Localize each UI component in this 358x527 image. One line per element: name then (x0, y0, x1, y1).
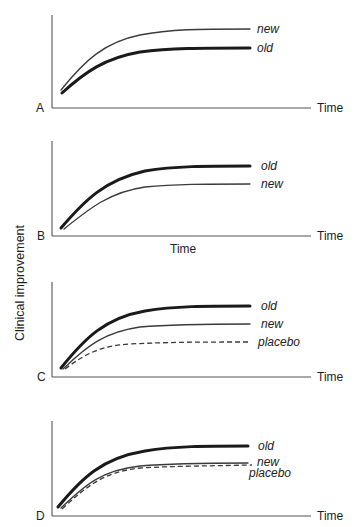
panel-c-new-curve (63, 324, 250, 369)
panel-b: old new Time Time B (37, 141, 344, 256)
panel-b-old-curve (61, 166, 250, 228)
y-axis-label: Clinical improvement (13, 224, 27, 341)
panel-a-new-curve (61, 29, 250, 90)
panel-d-placebo-label: placebo (248, 466, 291, 480)
panel-b-old-label: old (261, 159, 277, 173)
panel-b-under-axis-time-label: Time (170, 242, 197, 256)
panel-d-letter: D (36, 509, 45, 523)
panel-c-placebo-label: placebo (257, 335, 300, 349)
panel-b-new-curve (64, 184, 250, 229)
panel-a-time-label: Time (317, 101, 344, 115)
panel-d-placebo-curve (62, 465, 252, 509)
panel-d-old-label: old (258, 439, 274, 453)
panel-c-old-curve (61, 306, 250, 368)
panel-c-placebo-curve (65, 342, 250, 369)
panel-a-old-label: old (257, 41, 273, 55)
panel-a-letter: A (36, 101, 44, 115)
panel-c-new-label: new (261, 317, 284, 331)
panel-b-letter: B (37, 229, 45, 243)
panel-a-old-curve (62, 48, 250, 93)
panel-c-letter: C (37, 370, 46, 384)
panel-d-time-label: Time (317, 509, 344, 523)
panel-d-old-curve (58, 446, 248, 507)
panel-c: old new placebo Time C (37, 282, 344, 384)
panel-d-new-curve (61, 463, 248, 508)
panel-a-new-label: new (257, 22, 280, 36)
panel-c-time-label: Time (317, 370, 344, 384)
panel-c-old-label: old (261, 299, 277, 313)
panel-b-new-label: new (261, 177, 284, 191)
figure-canvas: Clinical improvement new old Time A old … (0, 0, 358, 527)
panel-d: old new placebo Time D (36, 421, 344, 523)
panel-b-time-label: Time (317, 229, 344, 243)
panel-a: new old Time A (36, 15, 344, 115)
